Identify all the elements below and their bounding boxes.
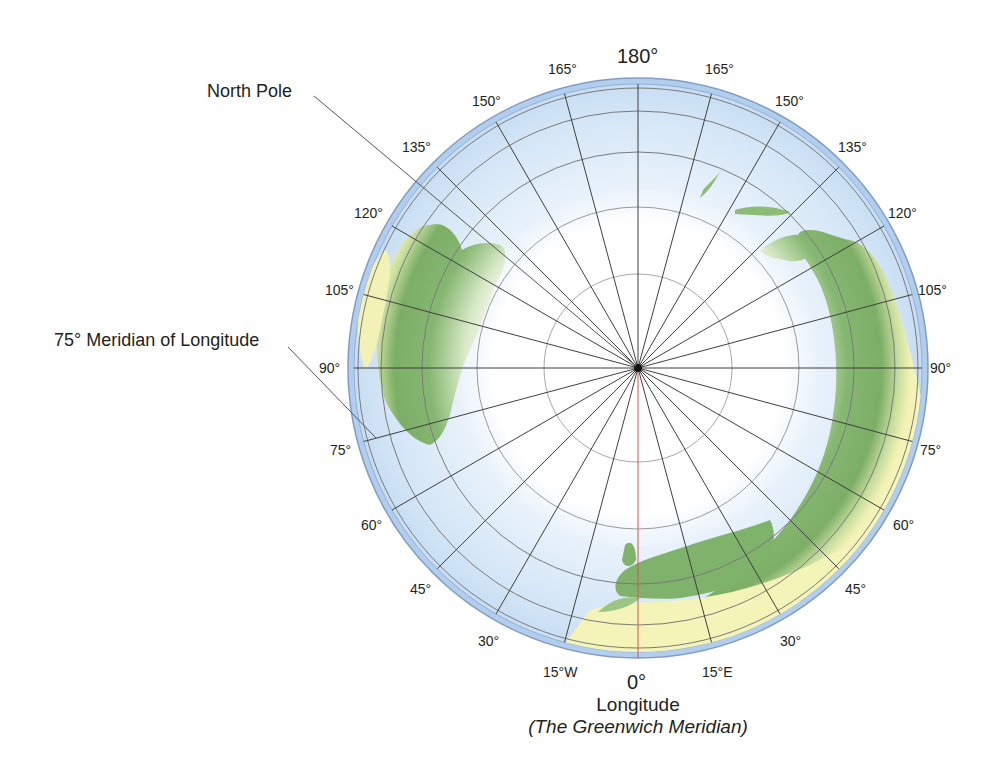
label-180: 180° [617, 46, 658, 66]
label-w-45: 45° [410, 582, 431, 596]
label-e-75: 75° [920, 443, 941, 457]
label-e-90: 90° [930, 361, 951, 375]
polar-longitude-diagram: 180° 165° 150° 135° 120° 105° 90° 75° 60… [0, 0, 1005, 768]
label-e-45: 45° [845, 582, 866, 596]
label-0: 0° [627, 672, 646, 692]
label-w-90: 90° [319, 361, 340, 375]
label-w-30: 30° [478, 634, 499, 648]
label-e-165: 165° [705, 62, 734, 76]
label-w-105: 105° [325, 283, 354, 297]
caption: Longitude (The Greenwich Meridian) [528, 694, 748, 738]
label-e-30: 30° [780, 634, 801, 648]
label-w-120: 120° [354, 206, 383, 220]
label-e-15: 15°E [702, 665, 733, 679]
label-e-105: 105° [918, 283, 947, 297]
label-w-135: 135° [402, 140, 431, 154]
label-w-150: 150° [472, 94, 501, 108]
caption-greenwich: (The Greenwich Meridian) [528, 716, 748, 738]
caption-longitude: Longitude [528, 694, 748, 716]
label-e-120: 120° [888, 206, 917, 220]
label-e-135: 135° [838, 140, 867, 154]
label-w-165: 165° [548, 62, 577, 76]
label-w-75: 75° [330, 443, 351, 457]
polar-map [0, 0, 1005, 768]
north-pole-callout: North Pole [207, 82, 292, 100]
label-w-60: 60° [361, 518, 382, 532]
meridian-75-callout: 75° Meridian of Longitude [54, 331, 259, 349]
label-e-150: 150° [775, 94, 804, 108]
label-e-60: 60° [893, 518, 914, 532]
label-w-15: 15°W [543, 665, 577, 679]
